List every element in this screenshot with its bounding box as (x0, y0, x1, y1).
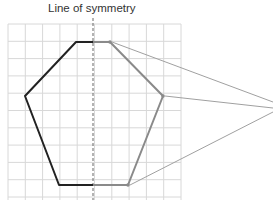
pentagon-symmetry-diagram (0, 0, 273, 200)
grid-paper (8, 24, 181, 200)
vertex-dot (126, 183, 130, 187)
left-half-outline (25, 42, 93, 185)
vertex-dot (108, 40, 112, 44)
vertex-dot (161, 94, 165, 98)
right-half-outline (93, 42, 163, 185)
